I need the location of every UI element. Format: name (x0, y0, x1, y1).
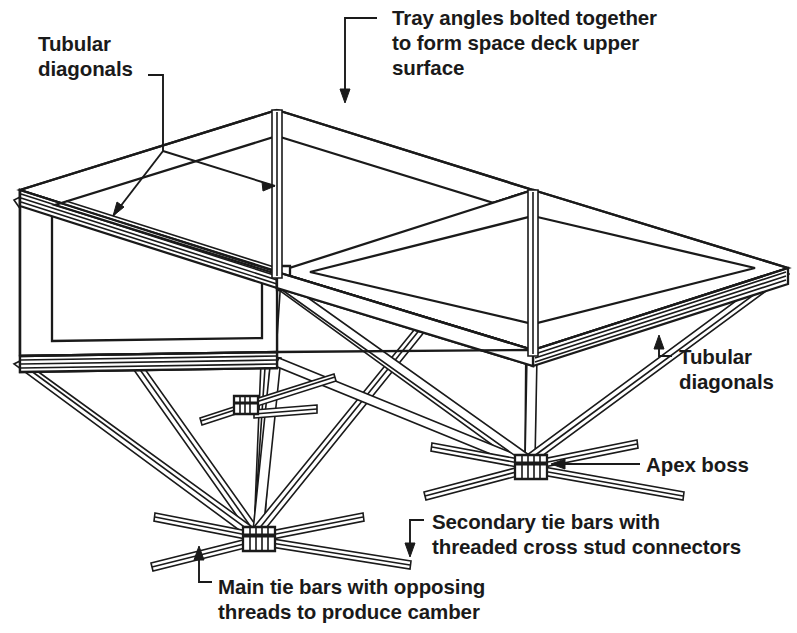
tubular-diagonal (14, 360, 262, 541)
leader-tray-angles (340, 18, 377, 103)
label-apex-boss: Apex boss (646, 452, 749, 477)
deck-post (272, 110, 282, 278)
label-tubular-diagonals-top-left: Tubular diagonals (38, 31, 133, 81)
main-tie-bar (266, 513, 364, 540)
label-secondary-tie-bars: Secondary tie bars with threaded cross s… (432, 509, 741, 559)
main-tie-bar (424, 466, 525, 500)
label-tubular-diagonals-bottom-right: Tubular diagonals (679, 344, 774, 394)
apex-boss-left (151, 513, 411, 571)
label-main-tie-bars: Main tie bars with opposing threads to p… (218, 574, 485, 624)
main-tie-bar (265, 538, 411, 569)
tubular-diagonal (525, 356, 537, 461)
diagram-canvas: .ln{fill:none;stroke:#1a1a1a;stroke-line… (0, 0, 797, 633)
apex-boss-right (424, 440, 684, 500)
leader-secondary-tie-bars (405, 520, 424, 557)
label-tray-angles: Tray angles bolted together to form spac… (392, 5, 657, 80)
leader-apex-boss (551, 459, 640, 469)
deck-post (528, 190, 538, 356)
